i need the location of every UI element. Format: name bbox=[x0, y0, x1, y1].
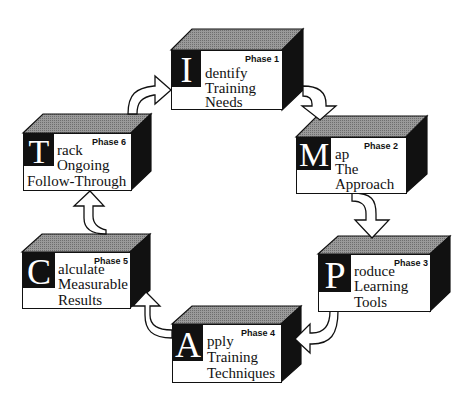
initial-letter: T bbox=[24, 134, 54, 166]
phase-label: Phase 4 bbox=[241, 328, 275, 338]
phase-label: Phase 6 bbox=[92, 137, 126, 147]
phase-text-line-3: Techniques bbox=[207, 366, 275, 381]
phase-box-5: C Phase 5 alculate Measurable Results bbox=[22, 252, 131, 309]
phase-box-4: A Phase 4 pply Training Techniques bbox=[172, 324, 282, 383]
initial-letter: P bbox=[319, 255, 351, 292]
phase-text-line-3: Approach bbox=[335, 177, 394, 192]
curved-arrow-down-icon bbox=[352, 193, 389, 238]
phase-box-3: P Phase 3 roduce Learning Tools bbox=[318, 254, 431, 312]
phase-text-line-3: Follow-Through bbox=[27, 174, 126, 189]
phase-text-line-2: Training bbox=[207, 350, 258, 365]
phase-text-line-1: dentify bbox=[205, 66, 248, 81]
phase-text-line-3: Needs bbox=[205, 95, 243, 110]
phase-box-6: T Phase 6 rack Ongoing Follow-Through bbox=[23, 133, 132, 191]
initial-letter: C bbox=[23, 253, 55, 288]
phase-label: Phase 2 bbox=[364, 141, 398, 151]
curved-arrow-up-icon bbox=[74, 191, 106, 234]
initial-letter: A bbox=[173, 325, 203, 361]
initial-letter: M bbox=[297, 138, 331, 170]
curved-arrow-up-icon bbox=[133, 292, 172, 338]
phase-text-line-1: alculate bbox=[58, 262, 105, 277]
phase-text-line-2: Ongoing bbox=[57, 158, 110, 173]
phase-text-line-1: rack bbox=[57, 143, 83, 158]
phase-label: Phase 3 bbox=[394, 258, 428, 268]
phase-text-line-3: Results bbox=[58, 293, 102, 308]
phase-text-line-1: ap bbox=[335, 147, 349, 162]
phase-box-1: I Phase 1 dentify Training Needs bbox=[171, 50, 283, 110]
phase-text-line-1: pply bbox=[207, 334, 234, 349]
phase-text-line-1: roduce bbox=[354, 264, 395, 279]
impact-cycle-diagram: I Phase 1 dentify Training Needs M Phase… bbox=[0, 0, 474, 407]
curved-arrow-down-icon bbox=[302, 86, 336, 120]
phase-text-line-2: Learning bbox=[354, 279, 408, 294]
phase-label: Phase 1 bbox=[245, 54, 279, 64]
phase-text-line-2: Measurable bbox=[58, 277, 128, 292]
initial-letter: I bbox=[172, 51, 201, 87]
phase-text-line-3: Tools bbox=[354, 295, 387, 310]
curved-arrow-right-icon bbox=[128, 76, 171, 114]
phase-box-2: M Phase 2 ap The Approach bbox=[296, 137, 407, 194]
phase-text-line-2: The bbox=[335, 162, 358, 177]
